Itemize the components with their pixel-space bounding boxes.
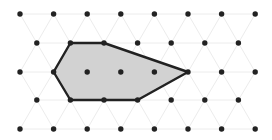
lattice-point xyxy=(51,126,56,131)
lattice-edge xyxy=(238,72,255,100)
lattice-edge xyxy=(104,14,121,43)
lattice-edge xyxy=(222,100,239,129)
lattice-point xyxy=(185,11,190,16)
lattice-edge xyxy=(138,14,155,43)
lattice-edge xyxy=(37,14,54,43)
lattice-edge xyxy=(205,14,222,43)
lattice-edge xyxy=(54,14,71,43)
lattice-point xyxy=(68,97,73,102)
lattice-edge xyxy=(87,14,104,43)
lattice-point xyxy=(152,126,157,131)
lattice-point xyxy=(17,69,22,74)
lattice-edge xyxy=(238,14,255,43)
lattice-edge xyxy=(121,14,138,43)
lattice-edge xyxy=(222,72,239,100)
lattice-point xyxy=(169,97,174,102)
lattice-edge xyxy=(188,14,205,43)
lattice-edge xyxy=(104,100,121,129)
lattice-point xyxy=(135,97,140,102)
lattice-point xyxy=(51,11,56,16)
lattice-edge xyxy=(70,14,87,43)
lattice-point xyxy=(202,40,207,45)
lattice-edge xyxy=(222,14,239,43)
lattice-edge xyxy=(154,100,171,129)
lattice-diagram xyxy=(0,0,272,140)
lattice-point xyxy=(152,69,157,74)
lattice-edge xyxy=(205,72,222,100)
lattice-point xyxy=(152,11,157,16)
lattice-edge xyxy=(188,100,205,129)
lattice-edge xyxy=(222,43,239,72)
lattice-edge xyxy=(238,43,255,72)
lattice-point xyxy=(185,126,190,131)
lattice-point xyxy=(118,69,123,74)
lattice-point xyxy=(85,11,90,16)
lattice-point xyxy=(236,97,241,102)
lattice-edge xyxy=(70,100,87,129)
lattice-edge xyxy=(238,100,255,129)
lattice-point xyxy=(202,97,207,102)
lattice-edge xyxy=(138,100,155,129)
lattice-point xyxy=(51,69,56,74)
lattice-edge xyxy=(20,72,37,100)
lattice-point xyxy=(34,40,39,45)
lattice-edge xyxy=(20,100,37,129)
lattice-point xyxy=(135,40,140,45)
lattice-point xyxy=(118,126,123,131)
lattice-edge xyxy=(188,72,205,100)
lattice-edge xyxy=(171,14,188,43)
lattice-edge xyxy=(87,100,104,129)
lattice-point xyxy=(101,40,106,45)
lattice-point xyxy=(253,69,258,74)
lattice-edge xyxy=(154,14,171,43)
lattice-point xyxy=(185,69,190,74)
lattice-point xyxy=(219,69,224,74)
lattice-point xyxy=(17,11,22,16)
lattice-edge xyxy=(37,72,54,100)
lattice-point xyxy=(253,11,258,16)
lattice-point xyxy=(17,126,22,131)
lattice-point xyxy=(219,11,224,16)
lattice-edge xyxy=(188,43,205,72)
lattice-edge xyxy=(205,100,222,129)
lattice-point xyxy=(85,126,90,131)
lattice-edge xyxy=(37,43,54,72)
lattice-point xyxy=(68,40,73,45)
lattice-point xyxy=(101,97,106,102)
lattice-edge xyxy=(205,43,222,72)
lattice-edge xyxy=(121,100,138,129)
lattice-edge xyxy=(20,14,37,43)
lattice-edge xyxy=(54,100,71,129)
lattice-point xyxy=(34,97,39,102)
lattice-point xyxy=(118,11,123,16)
lattice-point xyxy=(236,40,241,45)
lattice-point xyxy=(169,40,174,45)
lattice-edge xyxy=(20,43,37,72)
lattice-edge xyxy=(171,100,188,129)
lattice-edge xyxy=(37,100,54,129)
lattice-point xyxy=(219,126,224,131)
lattice-point xyxy=(85,69,90,74)
lattice-point xyxy=(253,126,258,131)
